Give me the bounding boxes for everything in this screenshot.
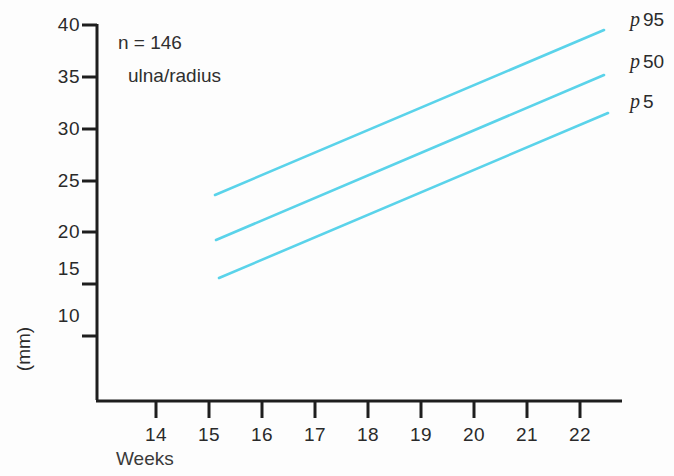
annotation-measurement-site: ulna/radius [128,65,221,87]
x-tick-label: 21 [507,424,547,446]
y-axis-ticks [82,25,97,336]
growth-chart: 40 35 30 25 20 15 10 14 15 16 17 18 19 2… [0,0,674,476]
x-tick-label: 15 [189,424,229,446]
x-tick-label: 19 [401,424,441,446]
percentile-value: 95 [643,9,664,30]
x-tick-label: 17 [295,424,335,446]
annotation-sample-size: n = 146 [118,32,182,54]
y-tick-label: 15 [36,258,80,280]
x-axis-title: Weeks [116,448,174,470]
y-tick-label: 35 [36,66,80,88]
x-axis-ticks [156,401,580,418]
series-label-p50: p50 [630,50,664,73]
x-tick-label: 18 [348,424,388,446]
series-lines [215,30,608,278]
x-tick-label: 20 [454,424,494,446]
y-axis-title: (mm) [13,309,35,389]
series-line-p50 [216,75,604,240]
percentile-value: 5 [643,91,654,112]
y-tick-label: 20 [36,221,80,243]
percentile-symbol: p [630,50,643,72]
y-tick-label: 40 [36,14,80,36]
percentile-symbol: p [630,8,643,30]
y-tick-label: 25 [36,170,80,192]
x-tick-label: 16 [242,424,282,446]
series-line-p95 [215,30,604,195]
x-tick-label: 22 [560,424,600,446]
series-line-p5 [219,113,608,278]
series-label-p5: p5 [630,90,654,113]
plot-area [0,0,674,476]
series-label-p95: p95 [630,8,664,31]
percentile-symbol: p [630,90,643,112]
percentile-value: 50 [643,51,664,72]
x-tick-label: 14 [136,424,176,446]
y-tick-label: 30 [36,118,80,140]
y-tick-label: 10 [36,305,80,327]
